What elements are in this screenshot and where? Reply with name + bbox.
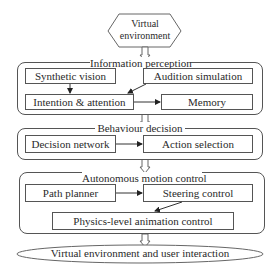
box-decision-network: Decision network: [25, 135, 116, 153]
box-audition-simulation: Audition simulation: [143, 68, 253, 84]
start-node-label: Virtual environment: [112, 18, 178, 42]
box-steering-control: Steering control: [143, 184, 253, 202]
box-synthetic-vision: Synthetic vision: [25, 68, 116, 84]
group-title-behaviour-decision: Behaviour decision: [95, 122, 185, 134]
end-node-label: Virtual environment and user interaction: [20, 247, 260, 259]
box-intention-attention: Intention & attention: [25, 94, 134, 110]
hollow-arrow-3: [140, 159, 150, 173]
box-path-planner: Path planner: [25, 184, 116, 202]
group-title-autonomous-motion-control: Autonomous motion control: [82, 172, 202, 184]
box-memory: Memory: [161, 94, 253, 110]
start-node-line1: Virtual: [112, 18, 178, 30]
box-action-selection: Action selection: [143, 135, 253, 153]
box-physics-level-animation-control: Physics-level animation control: [52, 212, 234, 230]
start-node-line2: environment: [112, 30, 178, 42]
